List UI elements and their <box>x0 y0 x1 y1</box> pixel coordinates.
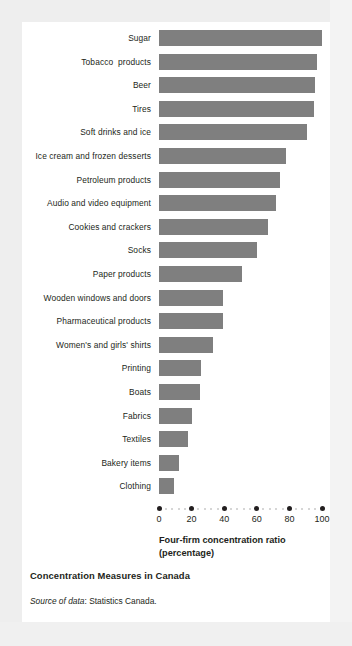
bar <box>159 431 188 447</box>
bar-row: Cookies and crackers <box>22 219 330 235</box>
axis-tick-dot-minor <box>217 508 219 510</box>
bar <box>159 408 192 424</box>
bar <box>159 54 317 70</box>
bar <box>159 30 322 46</box>
axis-tick-dot-minor <box>308 508 310 510</box>
bar-category-label: Clothing <box>22 478 151 494</box>
bar-track <box>159 266 322 282</box>
bar <box>159 478 174 494</box>
bar-track <box>159 408 322 424</box>
axis-tick-label: 20 <box>177 514 207 524</box>
bar <box>159 290 223 306</box>
figure-card: SugarTobacco productsBeerTiresSoft drink… <box>22 22 330 622</box>
bar-category-label: Textiles <box>22 431 151 447</box>
bar-row: Bakery items <box>22 455 330 471</box>
axis-tick-dot-minor <box>249 508 251 510</box>
axis-tick-dot-minor <box>275 508 277 510</box>
bar-track <box>159 77 322 93</box>
bar <box>159 195 276 211</box>
bar-category-label: Bakery items <box>22 455 151 471</box>
bar-row: Beer <box>22 77 330 93</box>
bar-row: Ice cream and frozen desserts <box>22 148 330 164</box>
bar-track <box>159 337 322 353</box>
bar-row: Clothing <box>22 478 330 494</box>
bar <box>159 266 242 282</box>
bar-track <box>159 101 322 117</box>
bar-category-label: Audio and video equipment <box>22 195 151 211</box>
bar-category-label: Ice cream and frozen desserts <box>22 148 151 164</box>
axis-tick-dot-minor <box>262 508 264 510</box>
axis-tick-label: 100 <box>307 514 337 524</box>
axis-tick-dot-minor <box>210 508 212 510</box>
bar-category-label: Boats <box>22 384 151 400</box>
bar-track <box>159 219 322 235</box>
bar-track <box>159 172 322 188</box>
axis-tick-dot-minor <box>197 508 199 510</box>
bar <box>159 77 315 93</box>
bar-track <box>159 455 322 471</box>
bar-track <box>159 54 322 70</box>
bar <box>159 455 179 471</box>
bar <box>159 172 280 188</box>
bar-category-label: Women's and girls' shirts <box>22 337 151 353</box>
source-value: Statistics Canada. <box>89 596 157 606</box>
bar <box>159 337 213 353</box>
axis-tick-dot-minor <box>184 508 186 510</box>
bar-track <box>159 242 322 258</box>
bar-track <box>159 148 322 164</box>
bar <box>159 360 201 376</box>
bar-category-label: Wooden windows and doors <box>22 290 151 306</box>
bar-row: Socks <box>22 242 330 258</box>
axis-tick-dot-major <box>222 506 227 511</box>
axis-tick-dot-major <box>320 506 325 511</box>
bar-category-label: Petroleum products <box>22 172 151 188</box>
bar-track <box>159 124 322 140</box>
axis-tick-dot-minor <box>314 508 316 510</box>
bar-track <box>159 195 322 211</box>
bar-row: Pharmaceutical products <box>22 313 330 329</box>
axis-tick-label: 60 <box>242 514 272 524</box>
bar-category-label: Tires <box>22 101 151 117</box>
axis-tick-dot-minor <box>236 508 238 510</box>
x-axis-title: Four-firm concentration ratio (percentag… <box>159 534 339 559</box>
axis-tick-dot-minor <box>295 508 297 510</box>
bar-chart: SugarTobacco productsBeerTiresSoft drink… <box>22 22 330 502</box>
axis-tick-dot-minor <box>301 508 303 510</box>
frame-edge-top <box>0 0 352 22</box>
bar-row: Audio and video equipment <box>22 195 330 211</box>
axis-tick-dot-major <box>157 506 162 511</box>
axis-tick-dot-minor <box>204 508 206 510</box>
source-note: Source of data: Statistics Canada. <box>30 596 157 606</box>
bar-track <box>159 478 322 494</box>
bar-row: Wooden windows and doors <box>22 290 330 306</box>
bar <box>159 242 257 258</box>
axis-tick-dot-minor <box>230 508 232 510</box>
bar <box>159 313 223 329</box>
bar-row: Sugar <box>22 30 330 46</box>
bar-row: Fabrics <box>22 408 330 424</box>
bar <box>159 101 314 117</box>
bar <box>159 384 200 400</box>
bar <box>159 219 268 235</box>
bar-row: Tires <box>22 101 330 117</box>
axis-tick-dot-minor <box>171 508 173 510</box>
bar-track <box>159 290 322 306</box>
x-axis: 020406080100 <box>159 506 334 536</box>
axis-tick-dot-minor <box>165 508 167 510</box>
bar-track <box>159 360 322 376</box>
bar-track <box>159 384 322 400</box>
axis-tick-dot-minor <box>243 508 245 510</box>
axis-tick-dot-major <box>189 506 194 511</box>
bar-category-label: Paper products <box>22 266 151 282</box>
axis-tick-dot-minor <box>178 508 180 510</box>
bar-track <box>159 431 322 447</box>
bar <box>159 148 286 164</box>
bar-category-label: Beer <box>22 77 151 93</box>
x-axis-title-line2: (percentage) <box>159 547 339 560</box>
axis-tick-label: 40 <box>209 514 239 524</box>
bar-category-label: Sugar <box>22 30 151 46</box>
axis-tick-dot-minor <box>269 508 271 510</box>
frame-edge-left <box>0 0 22 646</box>
bar-row: Boats <box>22 384 330 400</box>
bar-row: Women's and girls' shirts <box>22 337 330 353</box>
